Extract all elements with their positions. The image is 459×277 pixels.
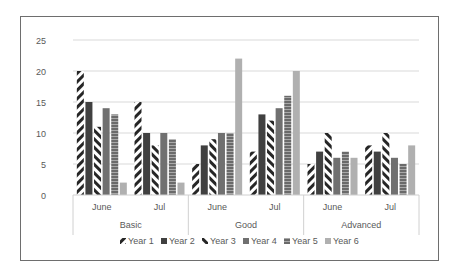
bar-year-6 — [235, 59, 242, 195]
bar-year-3 — [152, 145, 159, 195]
y-tick-label: 25 — [36, 36, 46, 46]
x-category-label: June — [92, 202, 112, 212]
bar-year-3 — [94, 127, 101, 195]
bar-year-5 — [169, 139, 176, 195]
legend: Year 1Year 2Year 3Year 4Year 5Year 6 — [120, 236, 359, 246]
bar-year-3 — [209, 139, 216, 195]
bar-year-2 — [258, 114, 265, 195]
y-tick-label: 10 — [36, 129, 46, 139]
x-category-label: June — [323, 202, 343, 212]
y-tick-label: 5 — [41, 160, 46, 170]
legend-item: Year 1 — [120, 236, 154, 246]
clustered-bar-chart: 0510152025 JuneJulBasicJuneJulGoodJuneJu… — [21, 17, 440, 262]
legend-item: Year 6 — [325, 236, 359, 246]
legend-item: Year 4 — [243, 236, 277, 246]
x-category-label: Jul — [269, 202, 281, 212]
legend-swatch-icon — [325, 238, 331, 244]
bar-year-6 — [408, 145, 415, 195]
bar-year-6 — [293, 71, 300, 195]
x-group-label: Advanced — [341, 220, 381, 230]
bar-year-6 — [178, 183, 185, 195]
bar-year-5 — [284, 96, 291, 195]
y-tick-label: 20 — [36, 67, 46, 77]
bar-year-1 — [250, 152, 257, 195]
x-axis: JuneJulBasicJuneJulGoodJuneJulAdvanced — [73, 195, 419, 235]
y-tick-label: 15 — [36, 98, 46, 108]
bar-year-5 — [342, 152, 349, 195]
legend-swatch-icon — [284, 238, 290, 244]
x-category-label: Jul — [384, 202, 396, 212]
legend-label: Year 3 — [210, 236, 236, 246]
legend-label: Year 5 — [292, 236, 318, 246]
bar-year-2 — [143, 133, 150, 195]
bars — [77, 59, 415, 195]
legend-swatch-icon — [202, 238, 208, 244]
bar-year-2 — [85, 102, 92, 195]
legend-item: Year 3 — [202, 236, 236, 246]
bar-year-4 — [391, 158, 398, 195]
legend-label: Year 4 — [251, 236, 277, 246]
bar-year-4 — [160, 133, 167, 195]
legend-label: Year 2 — [169, 236, 195, 246]
bar-year-1 — [135, 102, 142, 195]
bar-year-1 — [77, 71, 84, 195]
legend-item: Year 2 — [161, 236, 195, 246]
bar-year-4 — [103, 108, 110, 195]
bar-year-1 — [192, 164, 199, 195]
bar-year-3 — [267, 121, 274, 195]
bar-year-1 — [308, 164, 315, 195]
bar-year-5 — [111, 114, 118, 195]
x-category-label: June — [207, 202, 227, 212]
y-axis: 0510152025 — [36, 36, 46, 201]
bar-year-1 — [365, 145, 372, 195]
legend-swatch-icon — [120, 238, 126, 244]
bar-year-3 — [325, 133, 332, 195]
legend-swatch-icon — [161, 238, 167, 244]
x-group-label: Good — [235, 220, 257, 230]
bar-year-5 — [227, 133, 234, 195]
legend-label: Year 1 — [128, 236, 154, 246]
bar-year-4 — [276, 108, 283, 195]
bar-year-5 — [400, 164, 407, 195]
bar-year-6 — [351, 158, 358, 195]
bar-year-2 — [201, 145, 208, 195]
x-group-label: Basic — [120, 220, 143, 230]
legend-item: Year 5 — [284, 236, 318, 246]
legend-label: Year 6 — [333, 236, 359, 246]
bar-year-6 — [120, 183, 127, 195]
bar-year-2 — [374, 152, 381, 195]
bar-year-4 — [218, 133, 225, 195]
bar-year-3 — [382, 133, 389, 195]
x-category-label: Jul — [154, 202, 166, 212]
y-tick-label: 0 — [41, 191, 46, 201]
legend-swatch-icon — [243, 238, 249, 244]
bar-year-4 — [333, 158, 340, 195]
chart-frame: 0510152025 JuneJulBasicJuneJulGoodJuneJu… — [20, 16, 439, 261]
bar-year-2 — [316, 152, 323, 195]
